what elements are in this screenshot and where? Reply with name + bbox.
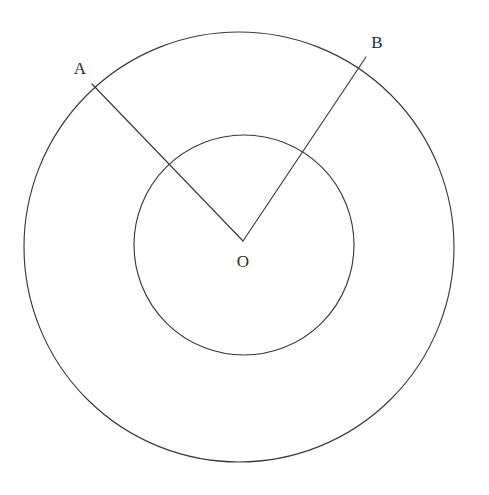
point-label-b: B [371,33,382,52]
outer-circle [24,32,454,462]
geometry-canvas: A B O [0,0,489,495]
point-label-o: O [237,252,249,271]
geometry-figure: A B O [0,0,489,495]
point-label-a: A [74,59,87,78]
radius-segment-ob [243,57,366,241]
inner-circle [134,135,354,355]
radius-segment-oa [92,84,243,241]
